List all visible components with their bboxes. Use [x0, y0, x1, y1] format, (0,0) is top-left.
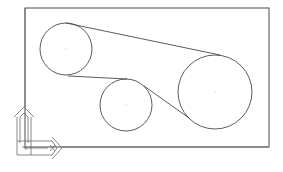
- pulley-1-center-mark: [65, 48, 66, 49]
- pulley-3-center-mark: [214, 91, 215, 92]
- drawing-background: [0, 0, 283, 172]
- cad-drawing-canvas[interactable]: [0, 0, 283, 172]
- pulley-2-center-mark: [125, 104, 126, 105]
- drawing-svg: [0, 0, 283, 172]
